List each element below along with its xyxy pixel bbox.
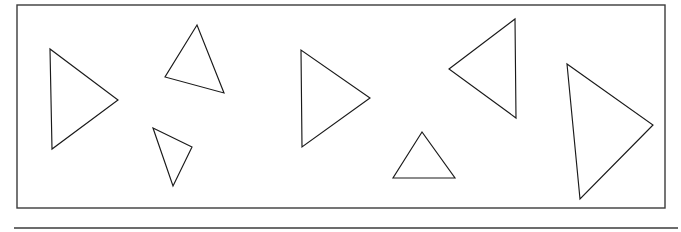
shape-layer <box>50 19 653 199</box>
triangle-6 <box>449 19 516 118</box>
triangle-2 <box>165 25 224 93</box>
triangle-7 <box>567 64 653 199</box>
panel-border <box>17 5 665 208</box>
triangle-3 <box>153 128 192 186</box>
figure-container <box>0 0 681 232</box>
triangles-figure <box>0 0 681 232</box>
triangle-4 <box>301 50 370 147</box>
triangle-1 <box>50 49 118 149</box>
triangle-5 <box>393 132 455 178</box>
